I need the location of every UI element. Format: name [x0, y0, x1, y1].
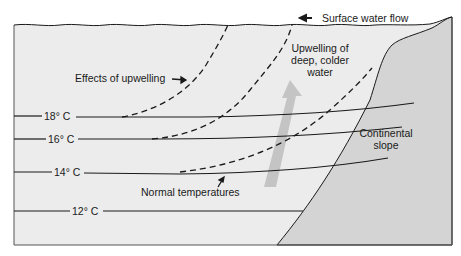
- upwelling-label-line2: deep, colder: [291, 54, 349, 66]
- slope-label-line1: Continental: [359, 127, 412, 139]
- upwelling-diagram: 18° C 16° C 14° C 12° C Surface water fl…: [0, 0, 461, 256]
- isotherm-12-label: 12° C: [72, 205, 99, 217]
- slope-label-line2: slope: [373, 139, 398, 151]
- isotherm-16-label: 16° C: [48, 133, 75, 145]
- surface-flow-label: Surface water flow: [322, 12, 409, 24]
- left-arrow-icon: [300, 15, 312, 21]
- isotherm-18-label: 18° C: [44, 110, 71, 122]
- effects-label: Effects of upwelling: [75, 72, 165, 84]
- isotherm-14-label: 14° C: [54, 166, 81, 178]
- upwelling-label-line1: Upwelling of: [291, 42, 348, 54]
- upwelling-label-line3: water: [306, 66, 333, 78]
- normal-temperatures-label: Normal temperatures: [141, 186, 240, 198]
